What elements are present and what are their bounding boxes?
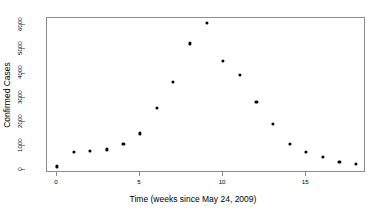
data-point	[55, 165, 58, 168]
x-tick-mark	[56, 172, 57, 176]
y-axis-title: Confirmed Cases	[0, 0, 14, 189]
x-tick-mark	[222, 172, 223, 176]
data-point	[72, 150, 75, 153]
data-point	[89, 149, 92, 152]
data-points-layer	[47, 18, 364, 171]
data-point	[338, 161, 341, 164]
data-point	[288, 142, 291, 145]
x-tick-mark	[139, 172, 140, 176]
y-tick-label: 0	[17, 167, 23, 170]
data-point	[172, 80, 175, 83]
y-tick-label: 3000	[17, 90, 23, 104]
data-point	[188, 42, 191, 45]
x-axis-title: Time (weeks since May 24, 2009)	[0, 194, 386, 204]
data-point	[305, 150, 308, 153]
data-point	[138, 132, 141, 135]
data-point	[105, 148, 108, 151]
scatter-plot-figure: Confirmed Cases 010002000300040005000600…	[0, 0, 386, 214]
x-tick-label: 15	[302, 178, 309, 185]
data-point	[155, 107, 158, 110]
x-tick-label: 0	[54, 178, 57, 185]
x-tick-label: 5	[137, 178, 140, 185]
y-tick-label: 1000	[17, 138, 23, 152]
data-point	[205, 21, 208, 24]
data-point	[271, 122, 274, 125]
x-axis: Time (weeks since May 24, 2009) 051015	[0, 172, 386, 214]
data-point	[238, 74, 241, 77]
data-point	[321, 155, 324, 158]
y-tick-label: 2000	[17, 114, 23, 128]
x-tick-label: 10	[219, 178, 226, 185]
y-axis-title-text: Confirmed Cases	[2, 62, 12, 128]
x-tick-mark	[305, 172, 306, 176]
plot-area	[46, 17, 365, 172]
data-point	[255, 101, 258, 104]
data-point	[222, 59, 225, 62]
data-point	[354, 162, 357, 165]
data-point	[122, 142, 125, 145]
y-tick-label: 4000	[17, 66, 23, 80]
y-tick-label: 5000	[17, 42, 23, 56]
y-tick-label: 6000	[17, 17, 23, 31]
